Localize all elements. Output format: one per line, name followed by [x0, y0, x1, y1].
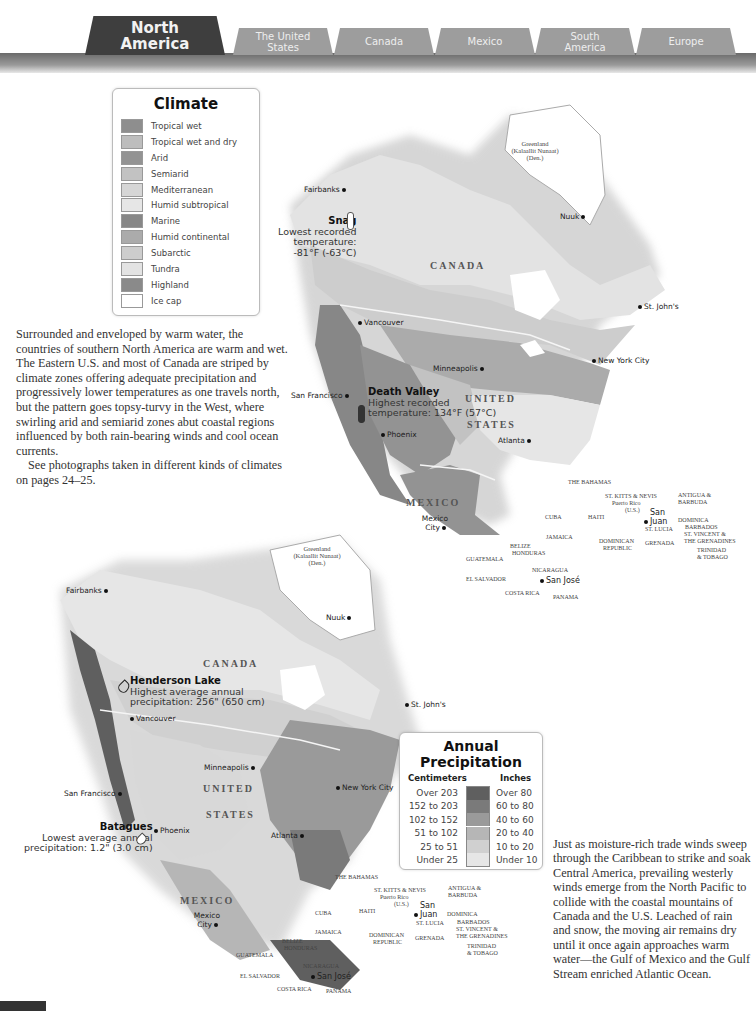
precip-swatch: [466, 853, 490, 867]
climate-legend: Climate Tropical wetTropical wet and dry…: [112, 88, 260, 316]
country-canada-2: CANADA: [203, 658, 258, 669]
legend-swatch: [121, 294, 143, 308]
legend-swatch: [121, 167, 143, 181]
legend-swatch: [121, 246, 143, 260]
climate-description: Surrounded and enveloped by warm water, …: [16, 327, 288, 488]
page-corner-marker: [0, 1001, 46, 1011]
tab-strip: [0, 53, 756, 73]
city-st-johns-2: St. John's: [403, 700, 446, 709]
precip-legend-list: Over 203Over 80152 to 20360 to 80102 to …: [400, 786, 542, 867]
legend-label: Arid: [151, 153, 168, 163]
city-st-johns: St. John's: [636, 302, 679, 311]
legend-label: Subarctic: [151, 248, 191, 258]
legend-label: Tropical wet: [151, 121, 202, 131]
climate-legend-list: Tropical wetTropical wet and dryAridSemi…: [113, 118, 259, 309]
precip-swatch: [466, 827, 490, 840]
city-san-francisco: San Francisco: [291, 391, 351, 400]
batagues-callout: Batagues Lowest average annual precipita…: [24, 822, 153, 854]
precip-inch-label: 40 to 60: [490, 815, 534, 825]
legend-swatch: [121, 151, 143, 165]
region-tab-bar: North America The United States Canada M…: [0, 0, 756, 75]
precip-legend-row: 102 to 15240 to 60: [400, 813, 542, 827]
henderson-lake-callout: Henderson Lake Highest average annual pr…: [130, 676, 265, 708]
climate-legend-item: Subarctic: [113, 245, 259, 261]
climate-legend-item: Semiarid: [113, 166, 259, 182]
tab-canada[interactable]: Canada: [334, 28, 434, 55]
legend-swatch: [121, 214, 143, 228]
city-nuuk-2: Nuuk: [326, 613, 353, 622]
city-fairbanks-2: Fairbanks: [66, 586, 110, 595]
greenland-label: Greenland(Kalaallit Nunaat)(Den.): [500, 140, 570, 161]
climate-legend-item: Tundra: [113, 261, 259, 277]
country-states: STATES: [467, 419, 516, 430]
climate-legend-item: Tropical wet and dry: [113, 134, 259, 150]
climate-legend-item: Marine: [113, 213, 259, 229]
city-san-juan: San Juan: [642, 508, 670, 526]
precip-cm-label: 152 to 203: [400, 801, 466, 811]
precip-inch-label: 20 to 40: [490, 828, 534, 838]
country-canada: CANADA: [430, 260, 485, 271]
legend-swatch: [121, 135, 143, 149]
precip-legend-header: Centimeters Inches: [400, 773, 542, 783]
city-nuuk: Nuuk: [560, 212, 587, 221]
thermometer-hot-icon: [358, 405, 365, 423]
legend-label: Tropical wet and dry: [151, 137, 237, 147]
legend-label: Marine: [151, 216, 180, 226]
precip-legend-row: 152 to 20360 to 80: [400, 800, 542, 814]
precip-inch-label: 10 to 20: [490, 842, 534, 852]
legend-swatch: [121, 119, 143, 133]
city-new-york: New York City: [590, 356, 649, 365]
city-phoenix: Phoenix: [379, 430, 417, 439]
city-new-york-2: New York City: [334, 783, 393, 792]
country-mexico: MEXICO: [406, 497, 460, 508]
precip-legend-row: Over 203Over 80: [400, 786, 542, 800]
climate-legend-item: Highland: [113, 277, 259, 293]
city-atlanta-2: Atlanta: [271, 831, 306, 840]
legend-label: Humid subtropical: [151, 200, 229, 210]
legend-swatch: [121, 183, 143, 197]
city-san-juan-2: San Juan: [412, 901, 440, 919]
legend-label: Mediterranean: [151, 185, 213, 195]
city-phoenix-2: Phoenix: [152, 826, 190, 835]
precip-legend-row: Under 25Under 10: [400, 854, 542, 868]
precip-swatch: [466, 840, 490, 853]
tab-the-united-states[interactable]: The United States: [233, 28, 333, 55]
city-san-jose-2: San José: [309, 972, 351, 981]
climate-legend-item: Humid subtropical: [113, 197, 259, 213]
city-atlanta: Atlanta: [498, 436, 533, 445]
precip-legend-row: 51 to 10220 to 40: [400, 827, 542, 841]
legend-swatch: [121, 230, 143, 244]
tab-north-america[interactable]: North America: [85, 16, 225, 55]
tab-europe[interactable]: Europe: [636, 28, 736, 55]
legend-label: Semiarid: [151, 169, 189, 179]
precip-cm-label: 51 to 102: [400, 828, 466, 838]
precip-inch-label: 60 to 80: [490, 801, 534, 811]
precip-cm-label: 102 to 152: [400, 815, 466, 825]
death-valley-callout: Death Valley Highest recorded temperatur…: [368, 387, 496, 419]
thermometer-cold-icon: [347, 212, 354, 230]
city-fairbanks: Fairbanks: [304, 185, 348, 194]
legend-label: Ice cap: [151, 296, 181, 306]
tab-south-america[interactable]: South America: [535, 28, 635, 55]
precip-inch-label: Over 80: [490, 788, 532, 798]
legend-label: Highland: [151, 280, 189, 290]
city-vancouver: Vancouver: [356, 318, 404, 327]
legend-label: Tundra: [151, 264, 180, 274]
city-san-francisco-2: San Francisco: [64, 789, 124, 798]
greenland-label-2: Greenland(Kalaallit Nunaat)(Den.): [282, 545, 352, 566]
precip-cm-label: 25 to 51: [400, 842, 466, 852]
legend-label: Humid continental: [151, 232, 229, 242]
country-states-2: STATES: [206, 809, 255, 820]
climate-map: [270, 95, 756, 535]
precip-legend-row: 25 to 5110 to 20: [400, 840, 542, 854]
precip-swatch: [466, 800, 490, 813]
tab-mexico[interactable]: Mexico: [435, 28, 535, 55]
precipitation-description: Just as moisture-rich trade winds sweep …: [553, 837, 751, 981]
city-minneapolis: Minneapolis: [433, 364, 486, 373]
legend-swatch: [121, 278, 143, 292]
snag-callout: Snag Lowest recorded temperature: -81°F …: [278, 216, 356, 258]
climate-legend-item: Humid continental: [113, 229, 259, 245]
city-minneapolis-2: Minneapolis: [204, 763, 257, 772]
precip-swatch: [466, 813, 490, 826]
precip-swatch: [466, 786, 490, 800]
